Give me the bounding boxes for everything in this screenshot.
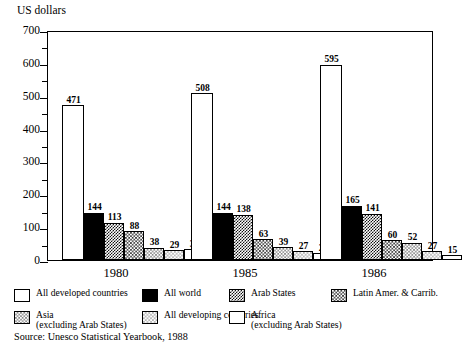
y-tick-label: 700 <box>8 25 40 37</box>
y-axis-major-tick <box>40 32 48 33</box>
bar: 15 <box>442 255 462 260</box>
y-tick-label: 400 <box>8 124 40 136</box>
bar: 144 <box>213 213 233 260</box>
bar-group: 50814413863392720 <box>191 32 311 260</box>
x-axis-label: 1980 <box>71 266 161 281</box>
bar-value-label: 39 <box>279 238 289 248</box>
y-tick-label: 0 <box>8 255 40 267</box>
legend-item: Latin Amer. & Carrib. <box>331 288 438 302</box>
bar-value-label: 88 <box>130 222 140 232</box>
legend-label: Asia(excluding Arab States) <box>36 310 127 331</box>
bar: 38 <box>144 248 164 260</box>
bar-value-label: 38 <box>150 238 160 248</box>
y-axis-major-tick <box>40 229 48 230</box>
bar-value-label: 138 <box>237 205 251 215</box>
y-axis-title: US dollars <box>17 4 66 16</box>
bar-value-label: 595 <box>325 55 339 65</box>
bar: 88 <box>124 231 144 260</box>
bar: 595 <box>320 65 342 261</box>
bar: 63 <box>253 239 273 260</box>
y-tick-label: 200 <box>8 189 40 201</box>
legend-label: All world <box>164 288 201 298</box>
bar: 27 <box>293 251 313 260</box>
bar-value-label: 113 <box>108 213 122 223</box>
bar-group: 47114411388382933 <box>62 32 182 260</box>
x-axis-label: 1986 <box>329 266 419 281</box>
bar: 27 <box>422 251 442 260</box>
legend-label: All developed countries <box>36 288 128 298</box>
bar-value-label: 141 <box>366 204 380 214</box>
bar-value-label: 508 <box>196 84 210 94</box>
legend-label: Latin Amer. & Carrib. <box>353 288 438 298</box>
bar-value-label: 15 <box>448 246 458 256</box>
legend-label: Africa(excluding Arab States) <box>251 310 342 331</box>
y-tick-label: 300 <box>8 156 40 168</box>
bar: 471 <box>62 105 84 260</box>
bar-value-label: 52 <box>408 233 418 243</box>
bar: 141 <box>362 214 382 260</box>
bar-value-label: 27 <box>299 242 309 252</box>
legend-label: Arab States <box>251 288 296 298</box>
bars-container: 4711441138838293350814413863392720595165… <box>48 32 432 260</box>
legend-item: All world <box>142 288 201 302</box>
bar: 138 <box>233 215 253 260</box>
bar-value-label: 165 <box>346 196 360 206</box>
bar-value-label: 63 <box>259 230 269 240</box>
bar-group: 59516514160522715 <box>320 32 440 260</box>
source-note: Source: Unesco Statistical Yearbook, 198… <box>14 331 188 342</box>
bar: 52 <box>402 243 422 260</box>
y-axis-major-tick <box>40 262 48 263</box>
legend-item: All developed countries <box>14 288 128 302</box>
plot-area: 4711441138838293350814413863392720595165… <box>47 31 433 261</box>
y-axis-major-tick <box>40 131 48 132</box>
bar: 29 <box>164 250 184 260</box>
bar-value-label: 29 <box>170 241 180 251</box>
bar-value-label: 144 <box>88 203 102 213</box>
legend-item: Africa(excluding Arab States) <box>229 310 342 331</box>
legend-swatch <box>229 311 245 324</box>
legend-item: Arab States <box>229 288 296 302</box>
bar-value-label: 60 <box>388 231 398 241</box>
bar: 113 <box>104 223 124 260</box>
x-axis-label: 1985 <box>200 266 290 281</box>
y-axis-major-tick <box>40 163 48 164</box>
bar: 60 <box>382 240 402 260</box>
y-axis-major-tick <box>40 196 48 197</box>
legend-swatch <box>142 289 158 302</box>
y-tick-label: 500 <box>8 91 40 103</box>
legend-swatch <box>229 289 245 302</box>
legend-swatch <box>331 289 347 302</box>
bar: 508 <box>191 93 213 260</box>
bar-value-label: 27 <box>428 242 438 252</box>
y-tick-label: 100 <box>8 222 40 234</box>
bar: 39 <box>273 247 293 260</box>
legend-swatch <box>14 311 30 324</box>
y-tick-label: 600 <box>8 58 40 70</box>
bar: 144 <box>84 213 104 260</box>
legend-swatch <box>14 289 30 302</box>
legend-item: Asia(excluding Arab States) <box>14 310 127 331</box>
y-axis-major-tick <box>40 65 48 66</box>
bar: 165 <box>342 206 362 260</box>
bar-value-label: 471 <box>67 96 81 106</box>
bar-value-label: 144 <box>217 203 231 213</box>
y-axis-major-tick <box>40 98 48 99</box>
legend-swatch <box>142 311 158 324</box>
